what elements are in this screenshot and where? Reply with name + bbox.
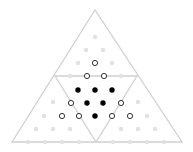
open-dot — [101, 73, 106, 78]
faint-dot — [51, 127, 55, 131]
open-dot — [68, 100, 73, 105]
filled-dot — [109, 87, 114, 92]
filled-dot — [75, 87, 80, 92]
faint-dot — [84, 48, 88, 52]
faint-dot — [34, 127, 38, 131]
filled-dot — [84, 100, 89, 105]
open-dot — [59, 113, 64, 118]
triangle-lattice-diagram — [0, 0, 193, 152]
faint-dot — [162, 140, 166, 144]
faint-dot — [110, 61, 114, 65]
faint-dot — [60, 140, 64, 144]
faint-dot — [119, 127, 123, 131]
triangle-outlines — [12, 10, 182, 142]
faint-dot — [145, 140, 149, 144]
faint-dot — [136, 127, 140, 131]
filled-dot — [92, 87, 97, 92]
faint-dot — [68, 127, 72, 131]
faint-dot — [76, 61, 80, 65]
open-dot — [92, 60, 97, 65]
faint-dot — [68, 74, 72, 78]
faint-dot — [111, 140, 115, 144]
faint-dot — [51, 100, 55, 104]
inner-triangle — [55, 76, 137, 142]
faint-dot — [77, 140, 81, 144]
filled-dot — [92, 113, 97, 118]
faint-dot — [145, 114, 149, 118]
faint-dot — [128, 140, 132, 144]
open-dot — [109, 113, 114, 118]
faint-dot — [136, 100, 140, 104]
open-dot — [76, 113, 81, 118]
faint-dot — [43, 140, 47, 144]
faint-dot — [26, 140, 30, 144]
faint-dot — [119, 74, 123, 78]
open-dot — [127, 113, 132, 118]
open-dot — [118, 100, 123, 105]
faint-dot — [42, 114, 46, 118]
faint-dot — [101, 48, 105, 52]
faint-dot — [93, 35, 97, 39]
filled-dot — [100, 100, 105, 105]
faint-dot — [153, 127, 157, 131]
open-dot — [84, 73, 89, 78]
